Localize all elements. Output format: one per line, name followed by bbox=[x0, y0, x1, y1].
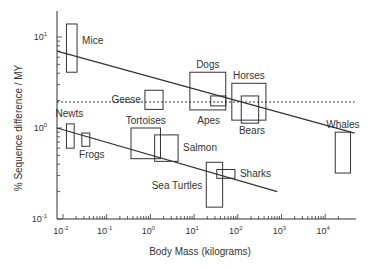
box-mice: Mice bbox=[66, 24, 103, 72]
box-geese: Geese bbox=[111, 90, 163, 109]
box-label: Frogs bbox=[79, 149, 105, 160]
x-axis-ticks: 10-210-1100101102103104 bbox=[53, 214, 338, 236]
y-tick-label: 10-1 bbox=[32, 213, 48, 224]
box-sharks: Sharks bbox=[217, 168, 271, 179]
data-boxes: MiceNewtsFrogsGeeseTortoisesSalmonDogsAp… bbox=[56, 24, 360, 207]
box-label: Sharks bbox=[240, 168, 271, 179]
y-tick-label: 101 bbox=[34, 31, 48, 42]
x-tick-label: 102 bbox=[229, 225, 243, 236]
box-label: Dogs bbox=[196, 59, 219, 70]
x-tick-label: 100 bbox=[142, 225, 156, 236]
box-salmon: Salmon bbox=[155, 135, 217, 161]
box-label: Tortoises bbox=[126, 115, 166, 126]
box-label: Newts bbox=[56, 108, 84, 119]
box-apes: Apes bbox=[197, 96, 225, 126]
x-tick-label: 104 bbox=[317, 225, 331, 236]
box-tortoises: Tortoises bbox=[126, 115, 166, 159]
box-label: Sea Turtles bbox=[152, 180, 203, 191]
chart: MiceNewtsFrogsGeeseTortoisesSalmonDogsAp… bbox=[0, 0, 376, 269]
box-label: Mice bbox=[82, 35, 104, 46]
box-label: Horses bbox=[233, 70, 265, 81]
box-label: Apes bbox=[197, 115, 220, 126]
box-label: Geese bbox=[111, 94, 141, 105]
y-axis-title: % Sequence difference / MY bbox=[13, 64, 24, 191]
x-axis-title: Body Mass (kilograms) bbox=[149, 246, 251, 257]
axes: 10-210-1100101102103104 10110010-1 bbox=[32, 11, 356, 236]
box-sea-turtles: Sea Turtles bbox=[152, 162, 223, 207]
box-dogs: Dogs bbox=[190, 59, 226, 110]
x-tick-label: 10-1 bbox=[97, 225, 113, 236]
y-tick-label: 100 bbox=[34, 122, 48, 133]
box-label: Salmon bbox=[183, 142, 217, 153]
x-tick-label: 101 bbox=[185, 225, 199, 236]
box-frogs: Frogs bbox=[79, 133, 105, 160]
x-tick-label: 10-2 bbox=[53, 225, 69, 236]
box-horses: Horses bbox=[232, 70, 266, 120]
x-tick-label: 103 bbox=[273, 225, 287, 236]
box-label: Bears bbox=[239, 125, 265, 136]
box-label: Whales bbox=[326, 119, 359, 130]
